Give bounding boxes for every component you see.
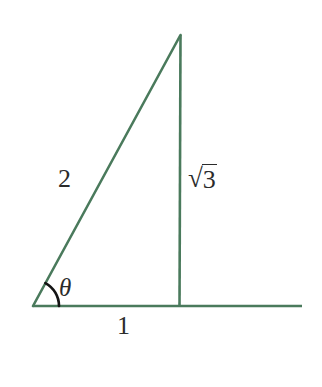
triangle-diagram [0, 0, 322, 387]
base-length-label: 1 [117, 313, 130, 339]
radical-sign-glyph: √ [188, 165, 202, 192]
vertical-leg-segment [180, 35, 181, 307]
hypotenuse-length-label: 2 [58, 166, 71, 192]
hypotenuse-segment [33, 35, 181, 306]
triangle-strokes [33, 35, 302, 307]
vertical-leg-length-label: √ 3 [188, 164, 217, 193]
angle-theta-label: θ [59, 275, 71, 300]
geometry-figure: 2 1 θ √ 3 [0, 0, 322, 387]
angle-arc [45, 283, 59, 306]
radicand-value: 3 [202, 164, 217, 193]
